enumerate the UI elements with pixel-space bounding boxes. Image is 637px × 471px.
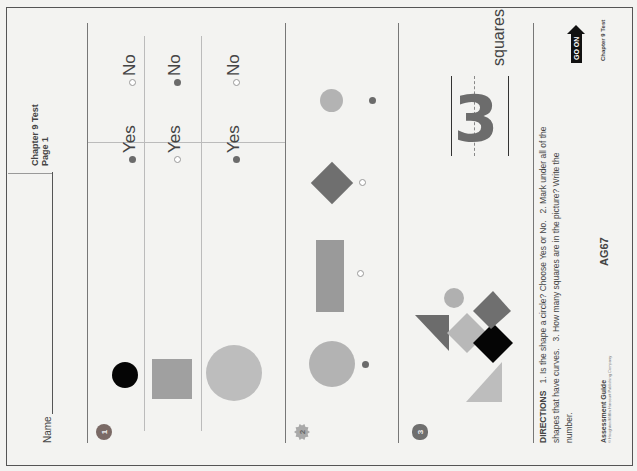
q1-shape-gray-square xyxy=(152,359,192,399)
q1-row-separator-2 xyxy=(201,36,202,431)
q1-row1-yes-radio[interactable] xyxy=(129,156,136,163)
assessment-guide-label: Assessment Guide xyxy=(600,356,607,443)
q2-large-circle-mark[interactable] xyxy=(362,361,369,368)
q1-shape-black-circle xyxy=(112,362,138,388)
q1-row2-no-radio[interactable] xyxy=(174,79,181,86)
q1-row-divider xyxy=(88,142,285,143)
q1-row2-no-label: No xyxy=(165,54,185,76)
q1-row3-no-radio[interactable] xyxy=(233,79,240,86)
footer-chapter-label: Chapter 9 Test xyxy=(600,20,606,61)
q1-row3-yes-label: Yes xyxy=(224,125,244,153)
q1-row2-yes-radio[interactable] xyxy=(174,156,181,163)
chapter-header: Chapter 9 Test Page 1 xyxy=(30,104,50,166)
directions-text: DIRECTIONS 1. Is the shape a circle? Cho… xyxy=(537,123,576,443)
copyright-text: © Houghton Mifflin Harcourt Publishing C… xyxy=(607,356,612,443)
chapter-title: Chapter 9 Test xyxy=(30,104,40,166)
q3-picture xyxy=(405,251,525,431)
section-divider-1-2 xyxy=(285,23,286,443)
q3-units-label: squares xyxy=(490,9,508,66)
directions-heading: DIRECTIONS xyxy=(538,391,548,443)
q1-row1-no-radio[interactable] xyxy=(129,79,136,86)
header-divider xyxy=(8,173,52,174)
name-label: Name xyxy=(42,416,53,443)
q3-answer-top-line xyxy=(451,76,452,156)
q2-shape-small-circle xyxy=(320,89,343,112)
page-label: Page 1 xyxy=(40,104,50,166)
q2-shape-rectangle xyxy=(316,240,344,312)
q2-small-circle-mark[interactable] xyxy=(369,97,376,104)
q2-diamond-mark[interactable] xyxy=(359,179,366,186)
section-divider-3-directions xyxy=(533,23,534,443)
direction-1: 1. Is the shape a circle? Choose Yes or … xyxy=(538,220,548,383)
section-divider-2-3 xyxy=(398,23,399,443)
q1-row3-no-label: No xyxy=(224,54,244,76)
footer-left: Assessment Guide © Houghton Mifflin Harc… xyxy=(600,356,612,443)
q1-row3-yes-radio[interactable] xyxy=(233,156,240,163)
q2-shape-diamond xyxy=(311,162,353,204)
q3-answer-bottom-line[interactable] xyxy=(508,76,509,156)
q3-answer-value: 3 xyxy=(454,87,499,151)
q3-shapes-svg xyxy=(405,251,525,431)
q1-shape-large-circle xyxy=(206,345,262,401)
q1-row-separator-1 xyxy=(144,36,145,431)
q1-row1-no-label: No xyxy=(120,54,140,76)
page-code: AG67 xyxy=(598,237,610,266)
question-1-apple-icon: 1 xyxy=(96,424,112,440)
go-on-button[interactable]: GO ON xyxy=(567,25,585,63)
name-input-line[interactable] xyxy=(52,172,53,414)
go-on-label: GO ON xyxy=(571,34,582,63)
q2-rectangle-mark[interactable] xyxy=(357,270,364,277)
section-divider-top xyxy=(87,23,88,443)
q2-shape-large-circle xyxy=(309,341,355,387)
q1-row2-yes-label: Yes xyxy=(165,125,185,153)
arrow-right-icon xyxy=(567,25,585,34)
q1-row1-yes-label: Yes xyxy=(120,125,140,153)
question-2-sun-badge-icon: 2 xyxy=(294,424,310,440)
worksheet-page: Name Chapter 9 Test Page 1 1 Yes No Yes … xyxy=(0,0,637,471)
